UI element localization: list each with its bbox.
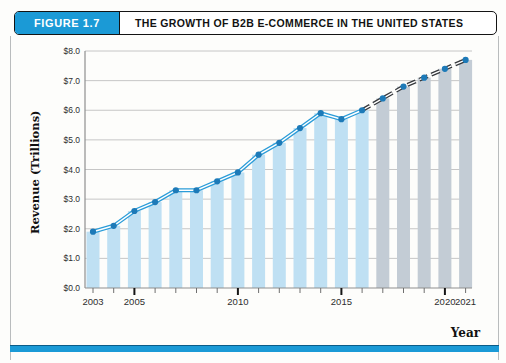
data-point: [111, 223, 117, 229]
revenue-bar: [418, 78, 431, 288]
revenue-bar: [397, 87, 410, 288]
data-point: [442, 66, 448, 72]
data-point: [380, 95, 386, 101]
revenue-bar: [273, 143, 286, 288]
data-point: [421, 75, 427, 81]
figure-banner: FIGURE 1.7 THE GROWTH OF B2B E-COMMERCE …: [14, 11, 497, 35]
data-point: [338, 116, 344, 122]
data-point: [359, 107, 365, 113]
revenue-bar: [211, 181, 224, 288]
figure-title: THE GROWTH OF B2B E-COMMERCE IN THE UNIT…: [120, 12, 496, 34]
x-tick-label: 2010: [227, 296, 248, 307]
data-point: [318, 110, 324, 116]
revenue-bar: [190, 190, 203, 288]
data-point: [131, 208, 137, 214]
data-point: [235, 169, 241, 175]
left-rule: [10, 36, 11, 360]
revenue-bar: [231, 172, 244, 288]
y-tick-label: $4.0: [63, 165, 80, 175]
data-point: [152, 199, 158, 205]
revenue-bar: [252, 155, 265, 288]
figure-number-badge: FIGURE 1.7: [15, 12, 120, 34]
data-point: [193, 187, 199, 193]
data-point: [90, 229, 96, 235]
revenue-bar: [107, 226, 120, 288]
y-tick-label: $8.0: [63, 46, 80, 56]
data-point: [173, 187, 179, 193]
y-tick-label: $7.0: [63, 76, 80, 86]
y-tick-label: $3.0: [63, 194, 80, 204]
y-axis-title: Revenue (Trillions): [26, 55, 44, 290]
data-point: [256, 152, 262, 158]
data-point: [276, 140, 282, 146]
revenue-bar: [169, 190, 182, 288]
y-tick-label: $5.0: [63, 135, 80, 145]
revenue-bar: [356, 110, 369, 288]
y-tick-label: $2.0: [63, 224, 80, 234]
y-tick-label: $6.0: [63, 105, 80, 115]
revenue-bar: [438, 69, 451, 288]
revenue-bar: [294, 128, 307, 288]
revenue-bar: [459, 60, 472, 288]
x-tick-label: 2020: [434, 296, 455, 307]
b2b-growth-chart: $0.0$1.0$2.0$3.0$4.0$5.0$6.0$7.0$8.02003…: [58, 45, 478, 308]
y-tick-label: $1.0: [63, 253, 80, 263]
revenue-bar: [335, 119, 348, 288]
x-tick-label: 2005: [124, 296, 145, 307]
revenue-bar: [314, 113, 327, 288]
revenue-bar: [87, 232, 100, 288]
revenue-bar: [128, 211, 141, 288]
data-point: [214, 178, 220, 184]
x-axis-title: Year: [420, 326, 480, 340]
x-tick-label: 2003: [82, 296, 103, 307]
data-point: [463, 57, 469, 63]
data-point: [400, 83, 406, 89]
revenue-bar: [376, 98, 389, 288]
revenue-bar: [149, 202, 162, 288]
textbook-figure-page: FIGURE 1.7 THE GROWTH OF B2B E-COMMERCE …: [0, 0, 506, 363]
bottom-rule: [10, 345, 499, 352]
x-tick-label: 2015: [331, 296, 352, 307]
data-point: [297, 125, 303, 131]
y-tick-label: $0.0: [63, 283, 80, 293]
right-rule: [498, 36, 499, 360]
x-tick-label: 2021: [455, 296, 476, 307]
